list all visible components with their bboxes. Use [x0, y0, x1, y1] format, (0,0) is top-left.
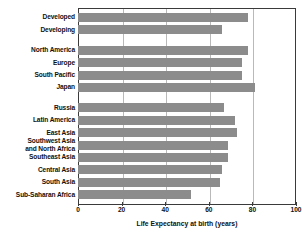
bar-fill [78, 103, 224, 112]
bar-fill [78, 190, 191, 199]
bar-latin-america[interactable] [78, 116, 235, 125]
x-tick-label: 0 [76, 206, 80, 213]
category-label: South Asia [0, 178, 75, 185]
bar-south-pacific[interactable] [78, 71, 242, 80]
bar-fill [78, 13, 248, 22]
bar-fill [78, 116, 235, 125]
bar-fill [78, 25, 222, 34]
category-label: Sub-Saharan Africa [0, 191, 75, 198]
bar-fill [78, 141, 228, 150]
x-axis-title: Life Expectancy at birth (years) [78, 220, 296, 227]
bar-fill [78, 83, 255, 92]
category-axis-labels: DevelopedDevelopingNorth AmericaEuropeSo… [0, 8, 75, 205]
x-tick-label: 60 [205, 206, 212, 213]
bar-fill [78, 153, 228, 162]
bar-east-asia[interactable] [78, 128, 237, 137]
bar-sub-saharan-africa[interactable] [78, 190, 191, 199]
bar-south-asia[interactable] [78, 178, 220, 187]
bar-fill [78, 58, 242, 67]
x-tick-label: 80 [249, 206, 256, 213]
bar-developed[interactable] [78, 13, 248, 22]
category-label: North America [0, 46, 75, 53]
category-label: Southeast Asia [0, 153, 75, 160]
bar-developing[interactable] [78, 25, 222, 34]
category-label: Developing [0, 26, 75, 33]
category-label: Europe [0, 59, 75, 66]
x-tick-label: 40 [162, 206, 169, 213]
bar-southwest-asia-and-north-africa[interactable] [78, 141, 228, 150]
bar-russia[interactable] [78, 103, 224, 112]
bar-southeast-asia[interactable] [78, 153, 228, 162]
bar-europe[interactable] [78, 58, 242, 67]
category-label: Russia [0, 104, 75, 111]
category-label: Japan [0, 83, 75, 90]
x-tick-label: 100 [290, 206, 301, 213]
bar-fill [78, 46, 248, 55]
bar-series [78, 8, 296, 205]
category-label: South Pacific [0, 71, 75, 78]
bar-japan[interactable] [78, 83, 255, 92]
bar-fill [78, 71, 242, 80]
x-tick-label: 20 [118, 206, 125, 213]
category-label: Latin America [0, 116, 75, 123]
bar-north-america[interactable] [78, 46, 248, 55]
bar-central-asia[interactable] [78, 165, 222, 174]
category-label: East Asia [0, 129, 75, 136]
bar-fill [78, 178, 220, 187]
category-label: Southwest Asiaand North Africa [0, 137, 75, 151]
bar-fill [78, 165, 222, 174]
category-label: Central Asia [0, 166, 75, 173]
x-axis-ticks: 020406080100 [0, 206, 302, 218]
bar-fill [78, 128, 237, 137]
life-expectancy-bar-chart: DevelopedDevelopingNorth AmericaEuropeSo… [0, 0, 302, 245]
category-label: Developed [0, 13, 75, 20]
